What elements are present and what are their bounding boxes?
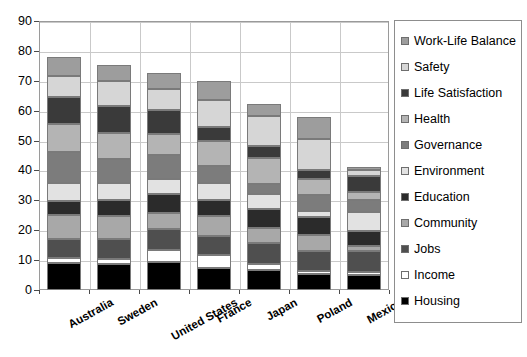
bar-segment[interactable] <box>147 194 181 213</box>
bar-segment[interactable] <box>247 243 281 264</box>
x-axis-label: Australia <box>66 296 115 330</box>
bar-australia[interactable] <box>47 21 81 290</box>
x-tick-mark <box>239 290 240 294</box>
bar-segment[interactable] <box>347 176 381 192</box>
bar-segment[interactable] <box>97 239 131 259</box>
bar-segment[interactable] <box>197 216 231 235</box>
bar-segment[interactable] <box>297 211 331 217</box>
bar-segment[interactable] <box>197 141 231 166</box>
bar-mexico[interactable] <box>347 21 381 290</box>
bar-segment[interactable] <box>97 133 131 158</box>
bar-united-states[interactable] <box>147 21 181 290</box>
legend-item[interactable]: Community <box>401 210 521 236</box>
bar-segment[interactable] <box>247 264 281 271</box>
bar-segment[interactable] <box>97 159 131 184</box>
bar-segment[interactable] <box>147 262 181 290</box>
bar-segment[interactable] <box>97 183 131 200</box>
bar-segment[interactable] <box>197 236 231 256</box>
legend-item[interactable]: Housing <box>401 288 521 314</box>
bar-segment[interactable] <box>297 117 331 140</box>
legend-item[interactable]: Life Satisfaction <box>401 80 521 106</box>
bar-segment[interactable] <box>147 73 181 89</box>
bar-segment[interactable] <box>197 81 231 100</box>
bar-france[interactable] <box>197 21 231 290</box>
bar-segment[interactable] <box>47 258 81 263</box>
bar-segment[interactable] <box>197 100 231 127</box>
bar-segment[interactable] <box>197 268 231 290</box>
bar-segment[interactable] <box>47 183 81 201</box>
bar-segment[interactable] <box>247 158 281 184</box>
bar-segment[interactable] <box>197 255 231 268</box>
bar-segment[interactable] <box>97 65 131 81</box>
legend-item[interactable]: Health <box>401 106 521 132</box>
bar-sweden[interactable] <box>97 21 131 290</box>
bar-segment[interactable] <box>297 179 331 195</box>
bar-segment[interactable] <box>297 251 331 270</box>
bar-segment[interactable] <box>197 166 231 184</box>
bar-segment[interactable] <box>147 229 181 251</box>
legend-item[interactable]: Jobs <box>401 236 521 262</box>
bar-segment[interactable] <box>347 251 381 273</box>
legend-swatch-icon <box>401 245 409 253</box>
legend-item-label: Work-Life Balance <box>414 35 516 48</box>
bar-segment[interactable] <box>47 124 81 152</box>
bar-japan[interactable] <box>247 21 281 290</box>
bar-segment[interactable] <box>147 213 181 229</box>
bar-segment[interactable] <box>247 194 281 209</box>
bar-segment[interactable] <box>197 127 231 141</box>
bar-segment[interactable] <box>347 200 381 213</box>
bar-segment[interactable] <box>97 216 131 239</box>
bar-segment[interactable] <box>297 274 331 290</box>
legend-item-label: Safety <box>414 61 449 74</box>
bar-segment[interactable] <box>197 183 231 200</box>
bar-segment[interactable] <box>47 239 81 258</box>
bar-segment[interactable] <box>247 116 281 146</box>
bar-segment[interactable] <box>297 195 331 211</box>
bar-segment[interactable] <box>297 170 331 179</box>
bar-segment[interactable] <box>347 231 381 246</box>
legend-item[interactable]: Governance <box>401 132 521 158</box>
bar-segment[interactable] <box>247 146 281 158</box>
bar-segment[interactable] <box>97 259 131 263</box>
bar-segment[interactable] <box>347 167 381 170</box>
bar-segment[interactable] <box>347 275 381 290</box>
bar-segment[interactable] <box>97 264 131 290</box>
bar-segment[interactable] <box>297 139 331 170</box>
legend-item[interactable]: Education <box>401 184 521 210</box>
bar-segment[interactable] <box>247 104 281 116</box>
bar-segment[interactable] <box>347 246 381 251</box>
bar-segment[interactable] <box>347 212 381 231</box>
legend-item[interactable]: Income <box>401 262 521 288</box>
bar-segment[interactable] <box>47 76 81 97</box>
bar-segment[interactable] <box>147 89 181 110</box>
bar-segment[interactable] <box>97 106 131 133</box>
bar-segment[interactable] <box>97 81 131 106</box>
bar-segment[interactable] <box>297 217 331 235</box>
bar-segment[interactable] <box>147 134 181 155</box>
legend-item[interactable]: Environment <box>401 158 521 184</box>
bar-segment[interactable] <box>147 155 181 178</box>
bar-segment[interactable] <box>347 192 381 200</box>
bar-segment[interactable] <box>97 200 131 216</box>
bar-segment[interactable] <box>47 201 81 215</box>
legend-item[interactable]: Safety <box>401 54 521 80</box>
bar-segment[interactable] <box>47 57 81 76</box>
bar-segment[interactable] <box>247 184 281 194</box>
bar-segment[interactable] <box>147 250 181 262</box>
legend-item[interactable]: Work-Life Balance <box>401 28 521 54</box>
bar-segment[interactable] <box>347 272 381 275</box>
bar-segment[interactable] <box>247 270 281 290</box>
bar-segment[interactable] <box>347 170 381 176</box>
bar-segment[interactable] <box>197 200 231 216</box>
bar-segment[interactable] <box>297 235 331 252</box>
bar-segment[interactable] <box>47 263 81 290</box>
bar-segment[interactable] <box>247 209 281 228</box>
bar-segment[interactable] <box>47 152 81 183</box>
bar-poland[interactable] <box>297 21 331 290</box>
bar-segment[interactable] <box>247 228 281 244</box>
bar-segment[interactable] <box>47 97 81 124</box>
bar-segment[interactable] <box>147 110 181 134</box>
bar-segment[interactable] <box>47 215 81 239</box>
bar-segment[interactable] <box>297 271 331 275</box>
bar-segment[interactable] <box>147 179 181 195</box>
